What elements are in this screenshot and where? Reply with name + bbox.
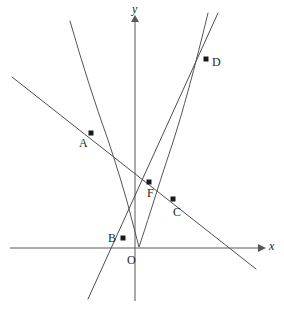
descending-line-afc [12,77,256,269]
x-axis-label: x [268,239,275,253]
point-dot-a [89,131,94,136]
point-dot-c [171,197,176,202]
point-label-d: D [212,55,221,69]
point-label-f: F [147,186,154,200]
point-dot-b [121,236,126,241]
x-axis-arrowhead [258,244,266,252]
point-dot-f [147,180,152,185]
figure-canvas: A B C D F O x y [0,0,284,313]
parabola-curve [70,13,208,247]
point-label-a: A [79,136,88,150]
origin-label: O [127,253,136,267]
point-label-b: B [108,231,116,245]
y-axis-arrowhead [131,15,139,22]
point-label-c: C [173,205,181,219]
y-axis-label: y [131,2,138,16]
point-dot-d [204,57,209,62]
geometry-figure: A B C D F O x y [0,0,284,313]
ascending-line-bfd [88,13,218,299]
